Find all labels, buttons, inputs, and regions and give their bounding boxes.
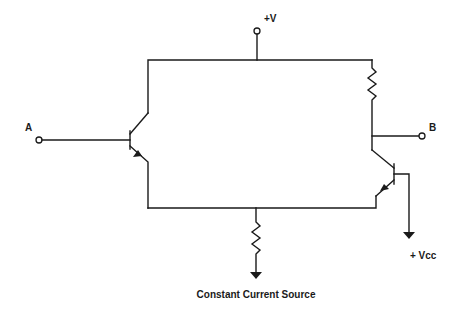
vcc-arrow-icon <box>403 232 415 239</box>
q2-base-lead <box>394 174 409 232</box>
plus-v-terminal <box>254 28 260 34</box>
input-a-terminal <box>36 137 42 143</box>
transistor-q2 <box>372 150 415 239</box>
output-b-label: B <box>429 122 436 133</box>
vcc-label: + Vcc <box>410 250 437 261</box>
input-a-label: A <box>25 122 32 133</box>
q1-emitter-arrow-icon <box>133 150 142 157</box>
q1-collector <box>130 113 148 134</box>
q2-collector <box>372 150 394 168</box>
output-b-terminal <box>419 133 425 139</box>
current-source-label: Constant Current Source <box>197 289 316 300</box>
resistor-r2 <box>252 208 260 272</box>
bottom-rail-wire <box>148 196 376 208</box>
transistor-q1 <box>130 113 148 208</box>
top-rail-wire <box>148 60 372 113</box>
ground-arrow-icon <box>250 272 262 279</box>
circuit-diagram: +V B A Constant Current Source + Vcc <box>0 0 459 309</box>
plus-v-label: +V <box>264 13 277 24</box>
